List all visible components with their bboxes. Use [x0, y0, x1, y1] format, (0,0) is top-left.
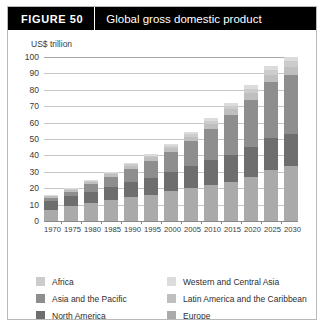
bar-1970[interactable]	[44, 57, 58, 221]
bar-2030[interactable]	[284, 57, 298, 221]
bar-segment	[244, 177, 258, 221]
x-tick-label-2020: 2020	[244, 225, 258, 234]
x-axis-labels: 1970197519801985199019952000200520102015…	[44, 225, 298, 234]
x-tick	[201, 221, 202, 224]
legend-item[interactable]: Western and Central Asia	[167, 273, 298, 290]
x-tick-label-2030: 2030	[284, 225, 298, 234]
bar-series-group	[44, 57, 298, 221]
y-tick-label-60: 60	[30, 118, 39, 128]
bar-segment	[104, 177, 118, 187]
bar-segment	[44, 201, 58, 209]
figure-header: FIGURE 50 Global gross domestic product	[8, 7, 316, 30]
bar-2000[interactable]	[164, 57, 178, 221]
bar-segment	[184, 141, 198, 166]
bar-segment	[144, 195, 158, 221]
legend-item[interactable]: North America	[36, 307, 167, 320]
bar-segment	[244, 100, 258, 148]
x-tick-label-2005: 2005	[184, 225, 198, 234]
bar-segment	[64, 206, 78, 221]
x-tick	[121, 221, 122, 224]
plot-area: 0102030405060708090100	[44, 57, 298, 221]
y-tick-label-100: 100	[25, 52, 39, 62]
bar-2015[interactable]	[224, 57, 238, 221]
bar-segment	[204, 185, 218, 221]
x-tick	[81, 221, 82, 224]
x-tick	[241, 221, 242, 224]
legend-item[interactable]: Asia and the Pacific	[36, 290, 167, 307]
bar-1995[interactable]	[144, 57, 158, 221]
bar-segment	[284, 166, 298, 221]
bar-2025[interactable]	[264, 57, 278, 221]
bar-1990[interactable]	[124, 57, 138, 221]
x-tick	[221, 221, 222, 224]
legend-label: Europe	[183, 311, 210, 321]
bar-segment	[84, 184, 98, 191]
bar-segment	[164, 191, 178, 221]
legend-label: Asia and the Pacific	[52, 294, 127, 304]
x-tick	[61, 221, 62, 224]
bar-segment	[224, 182, 238, 221]
bar-segment	[84, 203, 98, 221]
bar-segment	[124, 169, 138, 182]
y-tick-label-90: 90	[30, 68, 39, 78]
x-tick-label-1975: 1975	[64, 225, 78, 234]
chart-body: US$ trillion 0102030405060708090100 1970…	[8, 30, 316, 320]
y-tick-label-20: 20	[30, 183, 39, 193]
bar-segment	[244, 147, 258, 177]
figure-number: FIGURE 50	[8, 13, 94, 25]
x-tick	[281, 221, 282, 224]
bar-segment	[44, 210, 58, 221]
legend-label: Latin America and the Caribbean	[183, 294, 307, 304]
bar-segment	[284, 67, 298, 75]
bar-segment	[264, 170, 278, 221]
bar-segment	[144, 178, 158, 195]
bar-segment	[264, 82, 278, 138]
legend-column-left: AfricaAsia and the PacificNorth America	[36, 273, 167, 320]
chart-legend: AfricaAsia and the PacificNorth America …	[36, 273, 298, 320]
bar-segment	[284, 134, 298, 166]
bar-segment	[64, 196, 78, 206]
legend-item[interactable]: Africa	[36, 273, 167, 290]
x-tick-label-1985: 1985	[104, 225, 118, 234]
legend-column-right: Western and Central AsiaLatin America an…	[167, 273, 298, 320]
bar-segment	[184, 166, 198, 188]
bar-segment	[104, 200, 118, 221]
bar-segment	[204, 160, 218, 185]
bar-2010[interactable]	[204, 57, 218, 221]
bar-segment	[144, 161, 158, 177]
legend-swatch-icon	[167, 277, 176, 286]
legend-swatch-icon	[36, 277, 45, 286]
x-tick-label-1970: 1970	[44, 225, 58, 234]
x-tick-label-2015: 2015	[224, 225, 238, 234]
bar-segment	[264, 138, 278, 170]
y-tick-label-30: 30	[30, 167, 39, 177]
legend-label: Africa	[52, 277, 74, 287]
figure-frame: FIGURE 50 Global gross domestic product …	[7, 6, 317, 320]
x-tick-label-2025: 2025	[264, 225, 278, 234]
y-tick-label-80: 80	[30, 85, 39, 95]
y-tick-label-50: 50	[30, 134, 39, 144]
y-tick-label-40: 40	[30, 150, 39, 160]
bar-segment	[224, 155, 238, 182]
bar-2005[interactable]	[184, 57, 198, 221]
x-tick-label-1990: 1990	[124, 225, 138, 234]
legend-swatch-icon	[36, 294, 45, 303]
figure-title: Global gross domestic product	[95, 13, 261, 25]
x-tick-label-1995: 1995	[144, 225, 158, 234]
y-tick-label-70: 70	[30, 101, 39, 111]
bar-1985[interactable]	[104, 57, 118, 221]
bar-segment	[124, 197, 138, 221]
bar-segment	[104, 187, 118, 200]
legend-swatch-icon	[36, 311, 45, 320]
bar-2020[interactable]	[244, 57, 258, 221]
legend-item[interactable]: Europe	[167, 307, 298, 320]
x-tick	[101, 221, 102, 224]
legend-item[interactable]: Latin America and the Caribbean	[167, 290, 298, 307]
bar-segment	[164, 172, 178, 192]
bar-1975[interactable]	[64, 57, 78, 221]
figure-container: FIGURE 50 Global gross domestic product …	[0, 0, 324, 328]
x-tick	[181, 221, 182, 224]
x-tick-label-1980: 1980	[84, 225, 98, 234]
bar-1980[interactable]	[84, 57, 98, 221]
legend-swatch-icon	[167, 311, 176, 320]
